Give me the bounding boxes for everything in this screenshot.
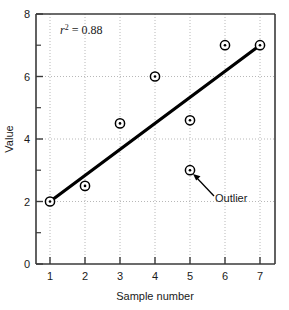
data-point-marker: [185, 116, 194, 125]
r-squared-exponent: 2: [65, 23, 69, 32]
data-point-marker: [80, 181, 89, 190]
scatter-plot-figure: 0 2 4 6 8 1 2 3 4 5 6 7 Sample number: [0, 0, 289, 310]
data-point-marker: [115, 119, 124, 128]
y-tick-label-2: 2: [24, 196, 30, 208]
x-tick-label-6: 6: [222, 270, 228, 282]
r-squared-value: 0.88: [81, 23, 102, 37]
y-tick-label-8: 8: [24, 8, 30, 20]
y-tick-label-6: 6: [24, 71, 30, 83]
x-tick-label-7: 7: [257, 270, 263, 282]
data-point-marker: [220, 41, 229, 50]
r-squared-equals: =: [72, 23, 79, 37]
outlier-label: Outlier: [215, 192, 248, 204]
y-tick-label-0: 0: [24, 258, 30, 270]
y-tick-label-4: 4: [24, 133, 30, 145]
x-tick-label-5: 5: [187, 270, 193, 282]
data-point-marker: [255, 41, 264, 50]
x-tick-label-4: 4: [152, 270, 158, 282]
y-axis-title: Value: [3, 125, 15, 152]
x-axis-title: Sample number: [116, 290, 194, 302]
chart-canvas: 0 2 4 6 8 1 2 3 4 5 6 7 Sample number: [0, 0, 289, 310]
outlier-data-point-marker: [185, 166, 194, 175]
x-tick-label-1: 1: [47, 270, 53, 282]
data-point-marker: [45, 197, 54, 206]
x-tick-label-3: 3: [117, 270, 123, 282]
x-tick-label-2: 2: [82, 270, 88, 282]
data-point-marker: [150, 72, 159, 81]
